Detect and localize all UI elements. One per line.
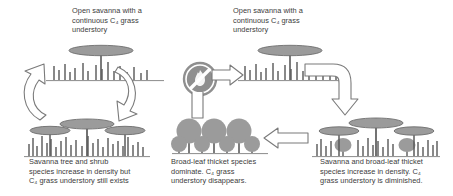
savanna-tree-small-right: [105, 126, 145, 156]
caption-bottom-middle: Broad-leaf thicket species dominate. C₄ …: [171, 157, 289, 186]
arrow-nofire-connector: [188, 92, 208, 124]
caption-top-left: Open savanna with a continuous C₄ grass …: [72, 6, 192, 35]
scene-mixed-savanna-thicket: [312, 116, 442, 160]
savanna-tree-mixed-left: [319, 127, 359, 156]
arrow-thicket-left: [263, 127, 309, 149]
savanna-tree-large-center: [60, 119, 114, 156]
broadleaf-shrub-right: [399, 138, 416, 156]
arrow-nofire-right: [212, 64, 244, 86]
caption-top-right: Open savanna with a continuous C₄ grass …: [233, 6, 353, 35]
broadleaf-shrub-left: [335, 138, 352, 156]
caption-bottom-left: Savanna tree and shrub species increase …: [29, 157, 167, 186]
arrow-cycle-down-right: [112, 64, 154, 124]
savanna-tree-mixed-center: [349, 118, 403, 156]
arrow-elbow-down: [303, 63, 367, 119]
savanna-thicket-diagram: Open savanna with a continuous C₄ grass …: [0, 0, 453, 196]
savanna-tree-small-left: [30, 126, 70, 156]
caption-bottom-right: Savanna and broad-leaf thicket species i…: [320, 157, 452, 186]
arrow-cycle-up-left: [14, 62, 54, 124]
grass-tufts-dense: [29, 136, 143, 156]
scene-dense-savanna: [24, 118, 152, 160]
